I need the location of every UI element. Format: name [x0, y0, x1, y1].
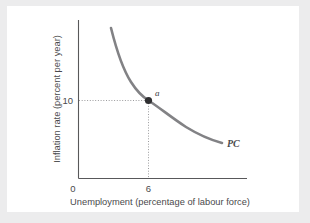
phillips-curve-line [111, 28, 222, 143]
origin-label-0: 0 [70, 183, 75, 194]
figure-root: a PC 10 0 6 Inflation rate (percent per … [0, 0, 310, 223]
x-tick-label-6: 6 [146, 183, 151, 194]
x-axis-title: Unemployment (percentage of labour force… [70, 197, 250, 207]
y-axis-title: Inflation rate (percent per year) [52, 35, 62, 163]
y-tick-label-10: 10 [62, 95, 73, 106]
phillips-curve-chart: a PC 10 0 6 Inflation rate (percent per … [0, 0, 310, 223]
point-a-label: a [155, 88, 160, 98]
curve-label-pc: PC [227, 138, 240, 149]
point-a-marker [145, 97, 152, 104]
